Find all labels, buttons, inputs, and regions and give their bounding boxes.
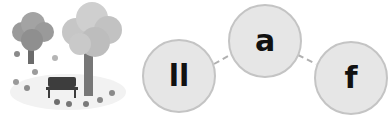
word-bubble-3: f xyxy=(314,41,388,115)
bubble-label-1: ll xyxy=(169,61,190,91)
connector-line-2 xyxy=(298,55,316,64)
bubble-label-3: f xyxy=(344,63,357,93)
word-bubble-1: ll xyxy=(142,39,216,113)
word-bubble-2: a xyxy=(228,4,302,78)
connector-line-1 xyxy=(214,55,230,64)
bubble-label-2: a xyxy=(255,26,275,56)
